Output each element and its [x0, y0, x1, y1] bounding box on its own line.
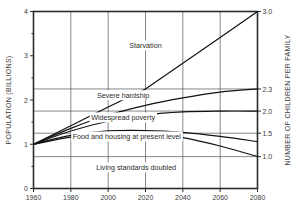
annotation-label: Starvation — [129, 41, 161, 50]
x-tick-label-2060: 2060 — [212, 194, 228, 201]
annotation-starvation: Starvation — [128, 40, 163, 50]
y-tick-label-3: 3 — [24, 52, 28, 59]
y2-axis-title: NUMBER OF CHILDREN PER FAMILY — [284, 34, 291, 165]
y2-tick-label-2.3: 2.3 — [263, 86, 273, 93]
y2-tick-label-1.0: 1.0 — [263, 153, 273, 160]
annotation-living-standards-doubled: Living standards doubled — [95, 162, 178, 172]
x-tick-label-1960: 1960 — [26, 194, 42, 201]
chart-canvas: 012343.02.32.01.51.019601980200020202040… — [0, 0, 299, 208]
annotation-label: Widespread poverty — [91, 113, 155, 122]
x-tick-label-2040: 2040 — [175, 194, 191, 201]
x-tick-label-2020: 2020 — [138, 194, 154, 201]
x-tick-label-2080: 2080 — [250, 194, 266, 201]
y2-tick-label-2.0: 2.0 — [263, 108, 273, 115]
y2-tick-label-1.5: 1.5 — [263, 130, 273, 137]
annotation-label: Living standards doubled — [96, 163, 176, 172]
annotation-widespread-poverty: Widespread poverty — [90, 112, 157, 122]
y-tick-label-0: 0 — [24, 185, 28, 192]
population-projection-chart: 012343.02.32.01.51.019601980200020202040… — [0, 0, 299, 208]
y-axis-title: POPULATION (BILLIONS) — [5, 55, 13, 144]
y-tick-label-1: 1 — [24, 141, 28, 148]
y-tick-label-4: 4 — [24, 8, 28, 15]
annotation-label: Food and housing at present level — [73, 132, 182, 141]
annotation-food-and-housing-at-present-level: Food and housing at present level — [71, 131, 183, 141]
x-tick-label-2000: 2000 — [100, 194, 116, 201]
annotation-severe-hardship: Severe hardship — [95, 90, 150, 100]
x-tick-label-1980: 1980 — [63, 194, 79, 201]
annotation-label: Severe hardship — [97, 91, 149, 100]
y2-tick-label-3.0: 3.0 — [263, 8, 273, 15]
y-tick-label-2: 2 — [24, 97, 28, 104]
